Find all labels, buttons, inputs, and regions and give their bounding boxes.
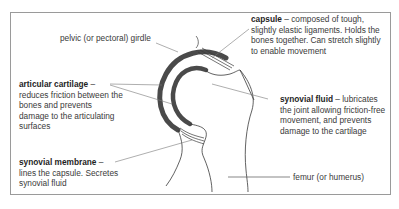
- leader-capsule: [212, 29, 249, 58]
- label-synovial-membrane: synovial membrane – lines the capsule. S…: [19, 157, 119, 189]
- leader-synovial-fluid: [212, 84, 268, 99]
- articular-cartilage-term: articular cartilage: [19, 79, 88, 89]
- label-synovial-fluid: synovial fluid – lubricates the joint al…: [280, 94, 388, 136]
- label-articular-cartilage: articular cartilage – reduces friction b…: [19, 79, 124, 132]
- label-femur: femur (or humerus): [293, 172, 364, 183]
- leader-pelvic-girdle: [156, 43, 178, 52]
- label-capsule: capsule – composed of tough, slightly el…: [251, 14, 386, 56]
- femur-outline-left: [206, 70, 254, 100]
- pelvis-lower: [166, 130, 182, 186]
- label-pelvic-girdle: pelvic (or pectoral) girdle: [60, 33, 151, 44]
- membrane-lower: [180, 128, 204, 144]
- femur-shaft-right: [240, 70, 253, 192]
- femur-head-lower: [190, 124, 212, 192]
- synovial-fluid-term: synovial fluid: [280, 94, 333, 104]
- synovial-membrane-term: synovial membrane: [19, 157, 96, 167]
- socket-cartilage: [160, 52, 226, 130]
- femoral-head-cartilage: [173, 68, 206, 124]
- capsule-term: capsule: [251, 14, 282, 24]
